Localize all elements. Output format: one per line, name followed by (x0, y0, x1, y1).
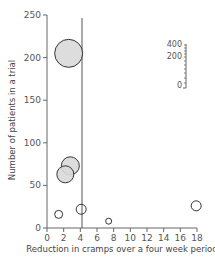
y-tick-label: 100 (24, 138, 41, 148)
x-tick-label: 2 (61, 233, 67, 243)
inset-tick-label: 0 (177, 81, 182, 90)
data-point-bubble (76, 204, 86, 214)
x-tick-label: 10 (125, 233, 137, 243)
inset-tick-label: 200 (167, 52, 182, 61)
y-tick-label: 0 (35, 223, 41, 233)
data-point-bubble (191, 201, 201, 211)
x-tick-label: 8 (111, 233, 117, 243)
x-tick-label: 12 (141, 233, 152, 243)
inset-tick-label: 400 (167, 40, 182, 49)
data-point-bubble (55, 210, 63, 218)
x-axis-title: Reduction in cramps over a four week per… (26, 244, 215, 254)
data-points (55, 39, 202, 224)
x-tick-label: 14 (158, 233, 170, 243)
y-tick-label: 250 (24, 10, 41, 20)
x-tick-label: 16 (175, 233, 187, 243)
x-tick-label: 0 (44, 233, 50, 243)
data-point-bubble (106, 218, 112, 224)
data-point-bubble (57, 166, 74, 183)
data-point-bubble (55, 39, 83, 67)
y-tick-label: 200 (24, 53, 41, 63)
y-tick-label: 50 (30, 180, 42, 190)
x-tick-label: 4 (77, 233, 83, 243)
y-tick-label: 150 (24, 95, 41, 105)
inset-size-scale: 4002000 (167, 40, 186, 90)
y-axis-title: Number of patients in a trial (7, 60, 17, 180)
x-tick-label: 6 (94, 233, 100, 243)
x-tick-label: 18 (191, 233, 203, 243)
bubble-chart: 050100150200250024681012141618 4002000 R… (0, 0, 215, 262)
